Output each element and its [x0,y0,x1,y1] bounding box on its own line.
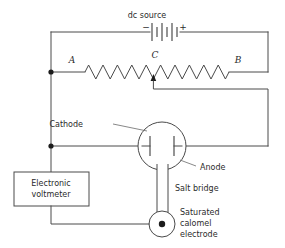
salt-bridge-label: Salt bridge [175,184,219,193]
leader-cathode [113,124,147,131]
resistor-terminal-a-label: A [68,55,76,65]
circuit-schematic-canvas: dc source − + A C B Cathode Anode Salt b… [0,0,285,248]
resistor-zigzag-icon [85,65,229,79]
calomel-label-line-2: calomel [180,219,211,228]
wire-voltmeter-to-calomel [51,206,149,224]
battery-positive-terminal-label: + [179,22,187,32]
junction-dot-cathode [48,143,53,148]
circuit-diagram: dc source − + A C B Cathode Anode Salt b… [0,0,285,248]
voltmeter-label-line-1: Electronic [31,179,70,188]
calomel-label-line-3: electrode [180,230,218,239]
cathode-label: Cathode [49,120,83,129]
battery-icon [152,23,177,41]
anode-label: Anode [200,163,226,172]
battery-negative-terminal-label: − [142,22,150,32]
resistor-tap-c-label: C [152,50,159,60]
dc-source-label: dc source [128,11,167,20]
junction-dot-top [48,69,53,74]
resistor-terminal-b-label: B [234,55,242,65]
voltmeter-box-icon[interactable] [14,172,89,206]
calomel-center-dot [159,221,165,227]
leader-anode [180,160,196,166]
voltmeter-label-line-2: voltmeter [31,190,71,199]
calomel-electrode-icon [149,211,175,237]
electrochemical-cell-icon [138,122,186,170]
calomel-label-line-1: Saturated [180,208,220,217]
